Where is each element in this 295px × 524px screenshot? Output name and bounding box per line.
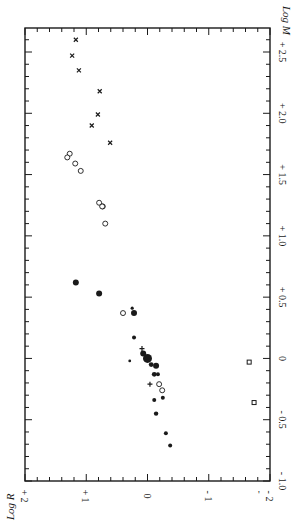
axis-ticks [25,28,270,481]
svg-text:- 2: - 2 [264,491,275,502]
svg-text:+ 2.5: + 2.5 [277,42,288,63]
log-r-axis-title: Log R [4,493,16,521]
svg-text:+ 2.0: + 2.0 [277,103,288,124]
svg-text:- 0.5: - 0.5 [277,411,288,429]
svg-text:0: 0 [277,356,288,361]
mass-radius-chart: - 1.0- 0.50+ 0.5+ 1.0+ 1.5+ 2.0+ 2.5+ 2+… [0,0,295,524]
svg-text:+ 1.0: + 1.0 [277,226,288,247]
svg-text:+ 0.5: + 0.5 [277,287,288,308]
stray-mark: ' [258,489,260,500]
tick-labels: - 1.0- 0.50+ 0.5+ 1.0+ 1.5+ 2.0+ 2.5+ 2+… [19,42,288,503]
svg-text:- 1: - 1 [203,491,214,502]
plot-frame [25,28,270,481]
svg-text:0: 0 [142,494,153,499]
data-points [65,38,256,448]
svg-text:+ 1: + 1 [80,489,91,502]
svg-text:+ 1.5: + 1.5 [277,164,288,185]
svg-text:+ 2: + 2 [19,489,30,502]
svg-text:- 1.0: - 1.0 [277,472,288,490]
log-m-axis-title: Log M [281,5,293,36]
